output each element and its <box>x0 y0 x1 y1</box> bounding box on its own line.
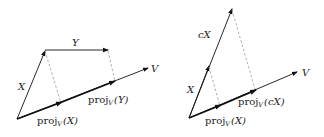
label-x: X <box>186 84 195 95</box>
label-proj-x: projV(X) <box>205 115 246 128</box>
dashed-projection-x <box>209 67 220 106</box>
projection-diagrams: X Y V projV(X) projV(Y) X cX V projV(X) … <box>0 0 324 137</box>
label-proj-x: projV(X) <box>37 115 78 128</box>
label-proj-cx: projV(cX) <box>238 96 285 109</box>
label-x: X <box>17 81 26 92</box>
dashed-projection-y <box>108 51 115 81</box>
dashed-projection-x <box>45 51 61 103</box>
label-y: Y <box>72 37 80 48</box>
label-v: V <box>151 63 160 74</box>
label-cx: cX <box>198 29 212 40</box>
dashed-projection-cx <box>232 10 255 89</box>
diagram-homogeneity: X cX V projV(X) projV(cX) <box>186 9 311 128</box>
label-v: V <box>302 67 311 78</box>
diagram-additivity: X Y V projV(X) projV(Y) <box>17 37 160 128</box>
label-proj-y: projV(Y) <box>88 94 129 107</box>
